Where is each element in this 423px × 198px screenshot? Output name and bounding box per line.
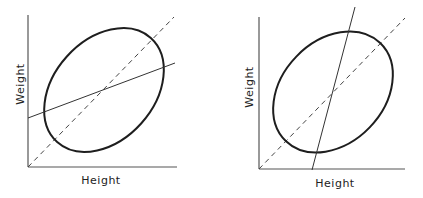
- right-y-axis-label: Weight: [243, 66, 256, 108]
- right-panel: Height Weight: [243, 7, 417, 190]
- left-x-axis-label: Height: [81, 174, 121, 187]
- right-x-axis-label: Height: [315, 177, 355, 190]
- diagram-canvas: Height Weight Height Weight: [0, 0, 423, 198]
- left-y-axis-label: Weight: [14, 63, 27, 105]
- right-regression-line: [312, 7, 355, 170]
- left-regression-line: [28, 63, 175, 118]
- left-panel: Height Weight: [14, 5, 188, 187]
